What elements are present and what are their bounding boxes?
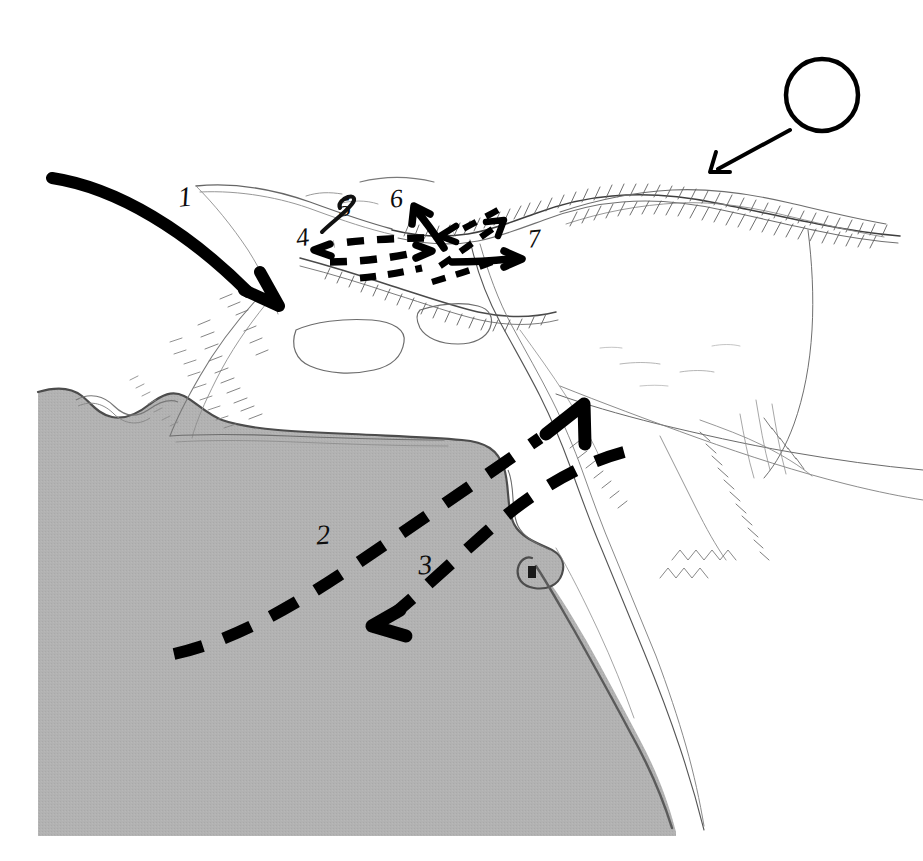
map-label-6: 6 <box>389 185 405 212</box>
terrain-sketch-figure: 1 2 3 4 5 6 7 <box>0 0 923 861</box>
map-label-1: 1 <box>177 182 194 211</box>
map-label-7: 7 <box>527 225 543 252</box>
sketch-canvas <box>0 0 923 861</box>
map-label-3: 3 <box>417 551 433 580</box>
inlet-marker <box>528 566 536 578</box>
map-label-2: 2 <box>315 521 331 550</box>
